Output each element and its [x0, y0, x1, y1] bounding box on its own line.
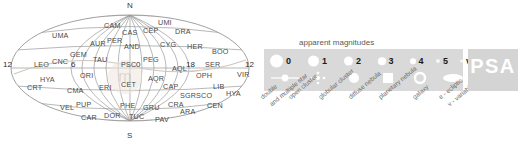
screenshot-root: m N S 12 6 0 18 12 UMACAMCASCEPUMIDRAAUR…: [0, 0, 522, 150]
ra-tick-18: 18: [186, 60, 195, 69]
magnitude-label: 4: [419, 56, 424, 66]
constellation-label: CET: [121, 80, 136, 89]
north-pole-label: N: [127, 1, 133, 10]
constellation-label: SER: [205, 60, 220, 69]
magnitude-label: 3: [389, 56, 394, 66]
constellation-label: CNC: [52, 57, 68, 66]
constellation-label: AQL: [172, 64, 187, 73]
constellation-label: SGR: [180, 91, 196, 100]
constellation-label: AND: [124, 42, 140, 51]
constellation-label: PHE: [120, 101, 135, 110]
constellation-label: VEL: [60, 103, 74, 112]
magnitude-label: 1: [322, 56, 327, 66]
constellation-label: CEP: [143, 26, 158, 35]
constellation-label: CYG: [160, 40, 176, 49]
magnitude-dot-icon: [460, 60, 463, 63]
constellation-label: OPH: [196, 71, 212, 80]
sky-chart-panel: m N S 12 6 0 18 12 UMACAMCASCEPUMIDRAAUR…: [0, 0, 261, 150]
constellation-label: LIB: [213, 82, 224, 91]
constellation-label: PSC: [121, 60, 136, 69]
psa-brand-box: PSA: [468, 49, 518, 91]
ra-tick-12-right: 12: [245, 60, 254, 69]
constellation-label: HER: [187, 42, 203, 51]
constellation-label: AUR: [90, 39, 106, 48]
constellation-label: GRU: [143, 103, 160, 112]
constellation-label: CAM: [104, 21, 121, 30]
constellation-label: ARA: [180, 107, 195, 116]
constellation-label: CMA: [67, 86, 84, 95]
legend-title: apparent magnitudes: [299, 38, 374, 47]
magnitude-label: 5: [443, 56, 448, 66]
constellation-label: VIR: [237, 70, 250, 79]
constellation-label: HYA: [226, 89, 241, 98]
magnitude-label: 2: [356, 56, 361, 66]
psa-brand-text: PSA: [468, 55, 518, 78]
magnitude-dot-icon: [270, 55, 283, 68]
constellation-label: DOR: [104, 111, 121, 120]
constellation-label: PER: [107, 36, 122, 45]
constellation-label: TUC: [129, 112, 144, 121]
magnitude-dot-icon: [344, 57, 353, 66]
ra-tick-6: 6: [71, 60, 75, 69]
constellation-label: PEG: [143, 55, 159, 64]
magnitude-dot-icon: [378, 57, 386, 65]
magnitude-dot-icon: [410, 58, 416, 64]
constellation-label: CAR: [81, 113, 97, 122]
constellation-label: CRT: [27, 83, 42, 92]
constellation-label: SCO: [196, 91, 212, 100]
constellation-label: CAP: [163, 82, 178, 91]
constellation-label: BOO: [212, 47, 229, 56]
magnitude-dot-icon: [436, 59, 440, 63]
constellation-label: ORI: [80, 71, 93, 80]
constellation-label: LEO: [34, 60, 49, 69]
constellation-label: CAS: [122, 28, 137, 37]
ra-tick-12-left: 12: [3, 60, 12, 69]
south-pole-label: S: [127, 131, 133, 140]
magnitude-label: 0: [286, 56, 291, 66]
constellation-label: ERI: [99, 83, 112, 92]
constellation-label: CEN: [207, 101, 223, 110]
magnitude-dot-icon: [308, 56, 319, 67]
constellation-label: PUP: [76, 100, 91, 109]
constellation-label: DRA: [175, 27, 191, 36]
constellation-label: UMA: [52, 31, 69, 40]
constellation-label: PAV: [155, 115, 169, 124]
constellation-label: TAU: [93, 55, 107, 64]
constellation-label: UMI: [158, 18, 172, 27]
ra-tick-0: 0: [136, 60, 140, 69]
legend-panel: apparent magnitudes 012345v. e doubleand…: [261, 0, 522, 150]
constellation-label: AQR: [148, 74, 164, 83]
constellation-label: GEM: [70, 50, 87, 59]
